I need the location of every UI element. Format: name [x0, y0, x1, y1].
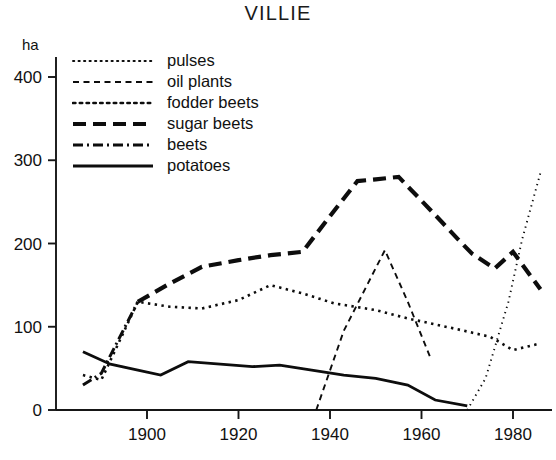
- series-line-oil-plants: [316, 250, 430, 410]
- series-line-potatoes: [83, 352, 467, 406]
- y-tick-label: 300: [14, 151, 42, 170]
- legend-label: sugar beets: [167, 113, 253, 134]
- legend-item-oil-plants[interactable]: oil plants: [72, 71, 302, 92]
- x-tick-label: 1940: [311, 425, 349, 444]
- data-series-group: [83, 173, 541, 410]
- x-tick-label: 1980: [494, 425, 532, 444]
- legend-swatch-oil-plants-icon: [72, 76, 154, 88]
- legend-swatch-sugar-beets-icon: [72, 118, 154, 130]
- series-line-sugar-beets: [138, 177, 541, 302]
- legend-item-sugar-beets[interactable]: sugar beets: [72, 113, 302, 134]
- x-tick-label: 1920: [220, 425, 258, 444]
- legend-item-fodder-beets[interactable]: fodder beets: [72, 92, 302, 113]
- chart-legend: pulsesoil plantsfodder beetssugar beetsb…: [72, 50, 302, 176]
- legend-swatch-beets-icon: [72, 139, 154, 151]
- series-line-fodder-beets: [83, 285, 541, 380]
- legend-swatch-pulses-icon: [72, 55, 154, 67]
- series-line-pulses: [467, 173, 540, 410]
- legend-label: fodder beets: [167, 92, 259, 113]
- y-tick-label: 400: [14, 68, 42, 87]
- x-tick-label: 1900: [128, 425, 166, 444]
- legend-swatch-fodder-beets-icon: [72, 97, 154, 109]
- y-tick-label: 200: [14, 235, 42, 254]
- legend-label: oil plants: [167, 71, 232, 92]
- legend-item-pulses[interactable]: pulses: [72, 50, 302, 71]
- y-tick-label: 0: [33, 401, 42, 420]
- x-tick-label: 1960: [403, 425, 441, 444]
- legend-item-beets[interactable]: beets: [72, 134, 302, 155]
- legend-label: potatoes: [167, 155, 230, 176]
- legend-item-potatoes[interactable]: potatoes: [72, 155, 302, 176]
- series-line-beets: [83, 302, 138, 385]
- legend-label: pulses: [167, 50, 215, 71]
- legend-swatch-potatoes-icon: [72, 160, 154, 172]
- y-tick-labels: 0100200300400: [14, 68, 42, 420]
- chart-figure: VILLIE ha 0100200300400 1900192019401960…: [0, 0, 556, 460]
- x-tick-labels: 19001920194019601980: [128, 425, 532, 444]
- y-tick-label: 100: [14, 318, 42, 337]
- legend-label: beets: [167, 134, 207, 155]
